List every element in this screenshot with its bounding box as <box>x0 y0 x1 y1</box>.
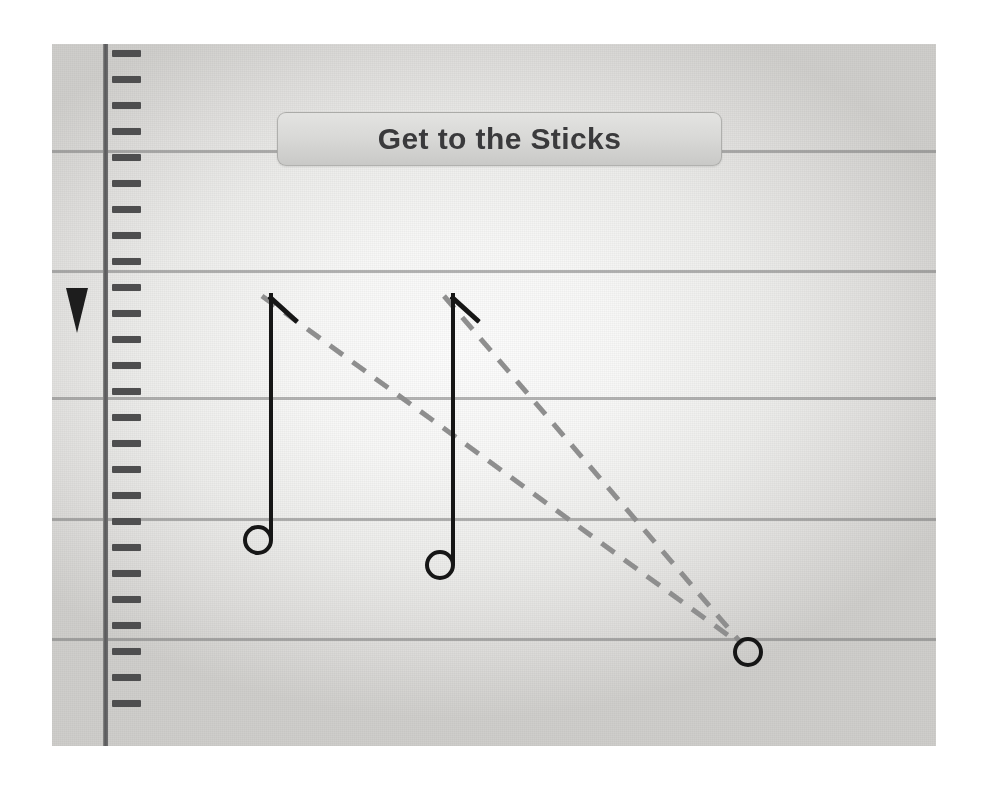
ruler-tick <box>112 310 141 317</box>
ruler-tick <box>112 50 141 57</box>
ruler-tick <box>112 232 141 239</box>
ruler-tick <box>112 492 141 499</box>
ruler-tick <box>112 102 141 109</box>
notation-stage[interactable]: Get to the Sticks <box>52 44 936 746</box>
note-stem <box>451 293 455 565</box>
note-stem <box>269 293 273 540</box>
ruler-tick <box>112 596 141 603</box>
ruler-tick <box>112 284 141 291</box>
ruler-tick <box>112 648 141 655</box>
screenshot-root: Get to the Sticks <box>0 0 981 785</box>
ruler-tick <box>112 206 141 213</box>
ruler-tick <box>112 154 141 161</box>
ruler-tick <box>112 258 141 265</box>
ruler-tick <box>112 518 141 525</box>
page-title: Get to the Sticks <box>378 122 622 156</box>
ruler-tick <box>112 544 141 551</box>
playhead-triangle-icon[interactable] <box>66 288 88 333</box>
ruler-tick <box>112 336 141 343</box>
ruler-tick <box>112 362 141 369</box>
ruler-tick <box>112 700 141 707</box>
ruler-tick <box>112 466 141 473</box>
ruler-tick <box>112 180 141 187</box>
ruler-tick <box>112 440 141 447</box>
ruler-tick <box>112 570 141 577</box>
notehead-3-target[interactable] <box>733 637 763 667</box>
ruler-tick <box>112 414 141 421</box>
ruler-tick <box>112 128 141 135</box>
vertical-ruler[interactable] <box>52 44 142 746</box>
ruler-tick <box>112 622 141 629</box>
title-banner[interactable]: Get to the Sticks <box>277 112 722 166</box>
ruler-rail <box>103 44 108 746</box>
ruler-tick <box>112 76 141 83</box>
ruler-tick <box>112 388 141 395</box>
ruler-tick <box>112 674 141 681</box>
